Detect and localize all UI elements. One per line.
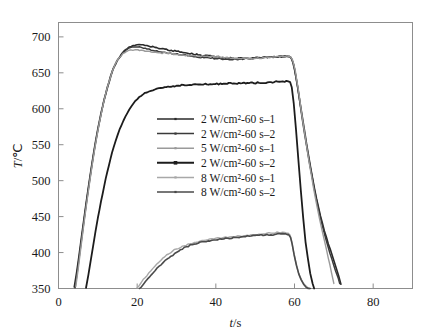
- legend-entry-label: 8 W/cm²-60 s–2: [201, 186, 275, 198]
- y-tick-label: 700: [32, 30, 51, 44]
- legend-marker: [174, 133, 176, 135]
- legend-marker: [174, 176, 176, 178]
- y-tick-label: 650: [32, 66, 51, 80]
- series-line: [140, 234, 311, 289]
- series-line: [137, 232, 310, 288]
- y-tick-label: 450: [32, 210, 51, 224]
- temperature-time-chart: 350400450500550600650700020406080 2 W/cm…: [0, 0, 428, 333]
- legend-entry-label: 2 W/cm²-60 s–2: [201, 128, 275, 140]
- legend-marker: [174, 147, 176, 149]
- x-tick-label: 40: [210, 295, 223, 309]
- axis-tick-labels: 350400450500550600650700020406080: [32, 30, 380, 308]
- legend-marker: [174, 118, 176, 120]
- y-axis-title: T/℃: [11, 143, 25, 168]
- legend-entry-label: 5 W/cm²-60 s–1: [201, 142, 275, 154]
- y-tick-label: 400: [32, 246, 51, 260]
- y-tick-label: 500: [32, 174, 51, 188]
- x-tick-label: 60: [288, 295, 301, 309]
- legend-entry-label: 2 W/cm²-60 s–1: [201, 113, 275, 125]
- series-line: [86, 81, 314, 289]
- figure-page: 350400450500550600650700020406080 2 W/cm…: [0, 0, 428, 333]
- x-axis-title: t/s: [230, 316, 242, 330]
- x-tick-label: 80: [367, 295, 380, 309]
- legend-entry-label: 2 W/cm²-60 s–2: [201, 157, 275, 169]
- legend-marker: [174, 191, 176, 193]
- x-tick-label: 20: [131, 295, 144, 309]
- legend-marker: [174, 161, 178, 165]
- y-tick-label: 600: [32, 102, 51, 116]
- chart-legend: 2 W/cm²-60 s–12 W/cm²-60 s–25 W/cm²-60 s…: [157, 113, 275, 198]
- y-tick-label: 550: [32, 138, 51, 152]
- y-tick-label: 350: [32, 282, 51, 296]
- legend-entry-label: 8 W/cm²-60 s–1: [201, 172, 275, 184]
- x-tick-label: 0: [55, 295, 61, 309]
